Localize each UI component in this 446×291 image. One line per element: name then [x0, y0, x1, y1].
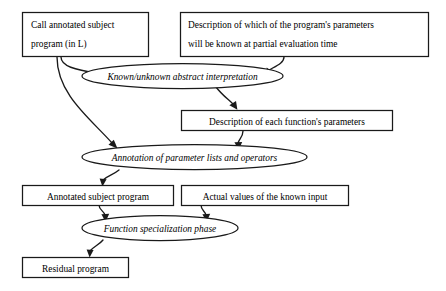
flowchart-canvas: Call annotated subject program (in L) De… [0, 0, 446, 291]
node-known-unknown-abstract-interpretation[interactable]: Known/unknown abstract interpretation [82, 64, 283, 89]
node-annotation-of-parameter-lists-and-operators[interactable]: Annotation of parameter lists and operat… [82, 145, 307, 170]
node-residual-program[interactable]: Residual program [23, 258, 129, 278]
node-description-of-known-parameters[interactable]: Description of which of the program's pa… [181, 13, 429, 57]
node-layer: Call annotated subject program (in L) De… [23, 13, 429, 278]
node-call-annotated-subject-program-line2: program (in L) [31, 39, 87, 50]
node-description-of-known-parameters-line1: Description of which of the program's pa… [188, 20, 374, 30]
node-description-of-each-functions-parameters-label: Description of each function's parameter… [209, 117, 365, 127]
node-function-specialization-phase[interactable]: Function specialization phase [82, 216, 238, 241]
node-function-specialization-phase-label: Function specialization phase [103, 224, 217, 234]
node-description-of-known-parameters-line2: will be known at partial evaluation time [188, 39, 337, 49]
node-call-annotated-subject-program[interactable]: Call annotated subject program (in L) [23, 13, 149, 57]
node-known-unknown-abstract-interpretation-label: Known/unknown abstract interpretation [106, 72, 257, 82]
flowchart-diagram: Call annotated subject program (in L) De… [0, 0, 446, 291]
node-residual-program-label: Residual program [42, 264, 110, 274]
node-description-of-each-functions-parameters[interactable]: Description of each function's parameter… [182, 111, 393, 131]
edge-abstract-interpretation-to-function-parameters [216, 87, 237, 110]
node-call-annotated-subject-program-line1: Call annotated subject [31, 20, 115, 30]
node-actual-values-of-the-known-input[interactable]: Actual values of the known input [182, 186, 349, 206]
node-actual-values-of-the-known-input-label: Actual values of the known input [203, 192, 328, 202]
edge-specialization-to-residual-program [87, 240, 103, 257]
node-annotated-subject-program[interactable]: Annotated subject program [23, 186, 174, 206]
node-annotation-of-parameter-lists-and-operators-label: Annotation of parameter lists and operat… [111, 153, 278, 163]
node-annotated-subject-program-label: Annotated subject program [47, 192, 150, 202]
edge-annotation-to-annotated-program [100, 170, 119, 186]
